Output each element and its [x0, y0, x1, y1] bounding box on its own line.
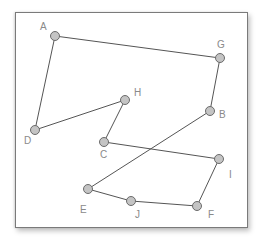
node-e: [84, 185, 93, 194]
node-label-i: I: [229, 169, 232, 180]
edge-d-a: [35, 36, 55, 130]
node-label-b: B: [219, 109, 226, 120]
node-j: [127, 197, 136, 206]
edges-layer: [35, 36, 220, 206]
graph-canvas: AGBHDCIEJF: [0, 0, 260, 241]
node-a: [51, 32, 60, 41]
node-f: [193, 202, 202, 211]
node-c: [100, 138, 109, 147]
nodes-layer: [31, 32, 225, 211]
node-label-c: C: [100, 149, 107, 160]
edge-e-j: [88, 189, 131, 201]
node-label-f: F: [208, 209, 214, 220]
node-b: [206, 107, 215, 116]
edge-f-i: [197, 159, 219, 206]
node-label-a: A: [40, 21, 47, 32]
node-label-g: G: [217, 39, 225, 50]
node-label-h: H: [134, 87, 141, 98]
edge-i-c: [104, 142, 219, 159]
node-label-e: E: [80, 204, 87, 215]
labels-layer: AGBHDCIEJF: [24, 21, 232, 220]
edge-a-g: [55, 36, 220, 58]
node-label-j: J: [135, 209, 140, 220]
node-h: [121, 96, 130, 105]
node-i: [215, 155, 224, 164]
node-d: [31, 126, 40, 135]
edge-h-d: [35, 100, 125, 130]
edge-j-f: [131, 201, 197, 206]
node-label-d: D: [24, 135, 31, 146]
node-g: [216, 54, 225, 63]
edge-g-b: [210, 58, 220, 111]
